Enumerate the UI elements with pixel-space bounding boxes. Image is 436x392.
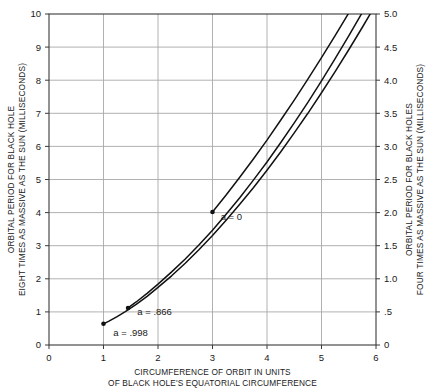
- x-tick-label: 1: [101, 352, 106, 363]
- y-axis-right-title-line1: ORBITAL PERIOD FOR BLACK HOLES: [404, 103, 414, 256]
- x-tick-label: 3: [210, 352, 215, 363]
- y-right-tick-label: 5.0: [384, 8, 397, 19]
- y-right-tick-label: 4.0: [384, 75, 397, 86]
- x-tick-label: 4: [264, 352, 269, 363]
- x-axis-title-line1: CIRCUMFERENCE OF ORBIT IN UNITS: [134, 367, 291, 377]
- y-right-tick-label: 4.5: [384, 42, 397, 53]
- y-axis-left-title-line1: ORBITAL PERIOD FOR BLACK HOLE: [6, 106, 16, 254]
- marker-a-866: [126, 306, 131, 311]
- annotation-a-0: a = 0: [221, 211, 242, 222]
- y-axis-right-title-line2: FOUR TIMES AS MASSIVE AS THE SUN (MILLIS…: [415, 64, 425, 295]
- chart-figure: 0123456 012345678910 0.51.01.52.02.53.03…: [0, 0, 436, 392]
- marker-a-0: [210, 210, 215, 215]
- orbital-period-chart: 0123456 012345678910 0.51.01.52.02.53.03…: [0, 0, 436, 392]
- y-right-tick-label: 1.0: [384, 273, 397, 284]
- y-left-tick-label: 1: [36, 306, 41, 317]
- y-right-tick-label: 2.5: [384, 174, 397, 185]
- x-tick-label: 5: [319, 352, 324, 363]
- y-axis-left-title-line2: EIGHT TIMES AS MASSIVE AS THE SUN (MILLI…: [17, 63, 27, 296]
- y-left-tick-label: 4: [36, 207, 41, 218]
- y-right-tick-label: 3.5: [384, 108, 397, 119]
- x-axis-title-line2: OF BLACK HOLE'S EQUATORIAL CIRCUMFERENCE: [108, 378, 317, 388]
- y-left-tick-label: 0: [36, 339, 41, 350]
- y-left-tick-label: 10: [30, 8, 41, 19]
- y-right-tick-label: 0: [384, 339, 389, 350]
- y-left-tick-label: 3: [36, 240, 41, 251]
- y-right-tick-label: 2.0: [384, 207, 397, 218]
- annotation-a-866: a = .866: [137, 306, 172, 317]
- y-right-tick-label: .5: [384, 306, 392, 317]
- y-left-tick-label: 9: [36, 42, 41, 53]
- x-tick-label: 6: [373, 352, 378, 363]
- x-tick-label: 2: [155, 352, 160, 363]
- y-left-tick-label: 2: [36, 273, 41, 284]
- y-right-tick-label: 3.0: [384, 141, 397, 152]
- annotation-a-998: a = .998: [113, 327, 148, 338]
- y-left-tick-label: 7: [36, 108, 41, 119]
- y-left-tick-label: 6: [36, 141, 41, 152]
- y-left-tick-label: 5: [36, 174, 41, 185]
- x-tick-label: 0: [46, 352, 51, 363]
- y-right-tick-label: 1.5: [384, 240, 397, 251]
- y-left-tick-label: 8: [36, 75, 41, 86]
- chart-background: [0, 0, 436, 392]
- marker-a-998: [101, 322, 106, 327]
